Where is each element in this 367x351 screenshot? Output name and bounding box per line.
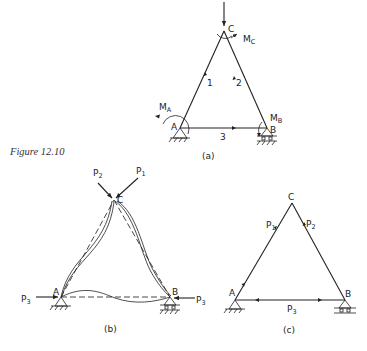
member-ab-arrow-right-icon xyxy=(318,298,322,302)
panel-c: C A B P1 P2 P3 (c) xyxy=(224,192,356,335)
load-p1-label: P1 xyxy=(266,220,276,232)
panel-a: C MC 1 2 3 MA MB A B (a) xyxy=(155,2,282,161)
moment-a-label: MA xyxy=(159,102,172,114)
load-p2-label: P2 xyxy=(306,219,316,231)
panel-c-label: (c) xyxy=(283,325,295,335)
pin-support-a-icon xyxy=(55,297,67,306)
load-p3-right-label: P3 xyxy=(196,295,206,307)
load-p3-left-label: P3 xyxy=(21,294,31,306)
member-3-arrow-icon xyxy=(232,126,236,130)
panel-b: C A B P2 P1 P3 P3 (b) xyxy=(21,166,206,334)
load-p1-label: P1 xyxy=(136,166,146,178)
node-b-label: B xyxy=(345,289,351,299)
figure-caption: Figure 12.10 xyxy=(9,146,65,157)
member-1-label: 1 xyxy=(207,78,213,88)
node-a-label: A xyxy=(229,288,236,298)
member-3-label: 3 xyxy=(220,132,226,142)
node-b-label: B xyxy=(172,287,178,297)
member-2-label: 2 xyxy=(236,78,242,88)
panel-a-label: (a) xyxy=(202,151,215,161)
moment-b-label: MB xyxy=(270,113,282,125)
load-p2-label: P2 xyxy=(93,168,103,180)
member-2 xyxy=(224,31,267,128)
load-p3-label: P3 xyxy=(287,304,297,316)
roller-support-b-icon xyxy=(339,300,351,308)
load-p2-arrow-icon xyxy=(98,183,112,198)
deformed-member-ac xyxy=(61,201,112,297)
node-c-label: C xyxy=(288,192,294,202)
moment-c-label: MC xyxy=(243,34,256,46)
member-ab-arrow-left-icon xyxy=(255,298,259,302)
member-1 xyxy=(180,31,224,128)
node-a-label: A xyxy=(171,122,178,132)
figure-12-10: C MC 1 2 3 MA MB A B (a) Figure 12.10 xyxy=(0,0,367,351)
node-a-label: A xyxy=(53,287,60,297)
node-b-label: B xyxy=(270,125,276,135)
panel-b-label: (b) xyxy=(104,324,117,334)
node-c-label: C xyxy=(117,195,123,205)
moment-c-arc-icon xyxy=(217,34,232,39)
deformed-member-ab xyxy=(61,290,170,302)
moment-a-arrow-icon xyxy=(155,115,160,119)
member-cb xyxy=(292,203,345,300)
node-c-label: C xyxy=(228,24,234,34)
pin-support-a-icon xyxy=(229,300,241,309)
